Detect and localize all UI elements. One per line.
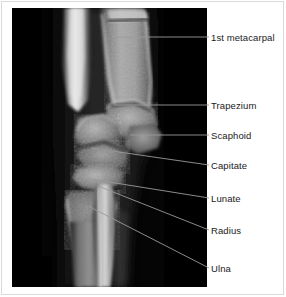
label-radius: Radius	[211, 225, 241, 236]
label-scaphoid: Scaphoid	[211, 130, 251, 141]
radiograph-canvas	[12, 8, 207, 287]
xray-figure: 1st metacarpal Trapezium Scaphoid Capita…	[0, 0, 286, 297]
label-capitate: Capitate	[211, 160, 247, 171]
label-lunate: Lunate	[211, 193, 241, 204]
label-ulna: Ulna	[211, 263, 231, 274]
wrist-radiograph	[12, 8, 207, 287]
film-grain	[12, 8, 207, 287]
label-trapezium: Trapezium	[211, 100, 256, 111]
label-first-metacarpal: 1st metacarpal	[211, 32, 275, 43]
